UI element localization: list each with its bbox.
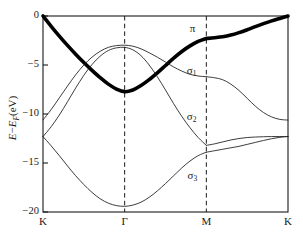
band-curves-group <box>43 16 288 206</box>
plot-frame <box>43 16 288 212</box>
x-tick-label-Γ: Γ <box>121 215 127 227</box>
band-structure-figure: 0−5−10−15−20 KΓMK πσ1σ2σ3 E−EF(eV) <box>0 0 303 237</box>
sigma1-band-label: σ1 <box>187 63 197 77</box>
band-curve-π <box>206 16 288 39</box>
y-axis-tick-labels: 0−5−10−15−20 <box>23 9 39 216</box>
x-tick-label-K: K <box>39 215 47 227</box>
x-tick-label-M: M <box>201 215 211 227</box>
y-tick-label: 0 <box>34 9 39 20</box>
y-tick-label: −15 <box>23 156 39 167</box>
sigma2-band-label: σ2 <box>187 110 197 124</box>
y-tick-label: −20 <box>23 205 39 216</box>
y-tick-label: −5 <box>28 58 39 69</box>
y-axis-title: E−EF(eV) <box>6 95 21 141</box>
band-structure-plot: 0−5−10−15−20 KΓMK πσ1σ2σ3 E−EF(eV) <box>0 0 303 237</box>
x-tick-label-K: K <box>284 215 292 227</box>
band-curve-σ₃ <box>206 137 288 153</box>
pi-band-label: π <box>190 21 196 33</box>
band-curve-σ₁ <box>206 77 288 120</box>
sigma3-band-label: σ3 <box>188 168 198 182</box>
y-tick-label: −10 <box>23 107 39 118</box>
x-axis-tick-labels: KΓMK <box>39 215 292 227</box>
